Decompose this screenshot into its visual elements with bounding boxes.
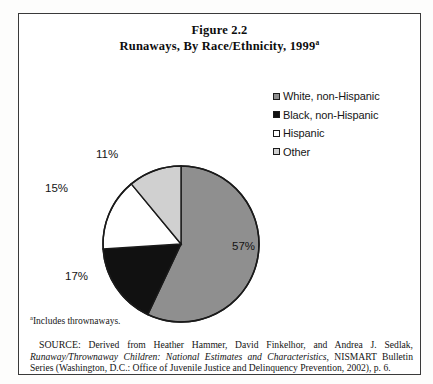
source-note: SOURCE: Derived from Heather Hammer, Dav… xyxy=(30,339,413,374)
figure-title-block: Figure 2.2 Runaways, By Race/Ethnicity, … xyxy=(19,22,420,54)
source-label: SOURCE: xyxy=(39,339,81,350)
legend-item-label: Hispanic xyxy=(283,127,324,139)
page-title: Runaways, By Race/Ethnicity, 1999a xyxy=(19,38,420,54)
footnote: aIncludes thrownaways. xyxy=(30,315,410,327)
slice-label-hispanic: 15% xyxy=(45,182,68,194)
pie-chart-svg xyxy=(41,146,271,326)
legend-swatch-icon xyxy=(273,148,280,155)
figure-frame: Figure 2.2 Runaways, By Race/Ethnicity, … xyxy=(18,13,421,375)
legend-item-hispanic[interactable]: Hispanic xyxy=(273,124,423,143)
legend-item-label: White, non-Hispanic xyxy=(283,90,380,102)
legend-swatch-icon xyxy=(273,130,280,137)
legend-swatch-icon xyxy=(273,111,280,118)
slice-label-black-non-hispanic: 17% xyxy=(65,270,88,282)
pie-chart: 57% 17% 15% 11% xyxy=(41,146,271,326)
legend-item-label: Other xyxy=(283,146,310,158)
footnote-text: Includes thrownaways. xyxy=(33,316,121,326)
slice-label-other: 11% xyxy=(96,148,118,160)
legend-item-white-non-hispanic[interactable]: White, non-Hispanic xyxy=(273,87,423,106)
source-text-part1: Derived from Heather Hammer, David Finke… xyxy=(81,339,413,350)
slice-label-white-non-hispanic: 57% xyxy=(232,240,255,252)
chart-legend: White, non-Hispanic Black, non-Hispanic … xyxy=(273,87,423,161)
figure-number: Figure 2.2 xyxy=(19,22,420,38)
title-footnote-marker: a xyxy=(315,38,319,47)
legend-swatch-icon xyxy=(273,93,280,100)
source-publication-title: Runaway/Thrownaway Children: National Es… xyxy=(30,351,329,362)
legend-item-other[interactable]: Other xyxy=(273,143,423,162)
figure-title-text: Runaways, By Race/Ethnicity, 1999 xyxy=(120,39,316,53)
legend-item-label: Black, non-Hispanic xyxy=(283,109,378,121)
legend-item-black-non-hispanic[interactable]: Black, non-Hispanic xyxy=(273,106,423,125)
